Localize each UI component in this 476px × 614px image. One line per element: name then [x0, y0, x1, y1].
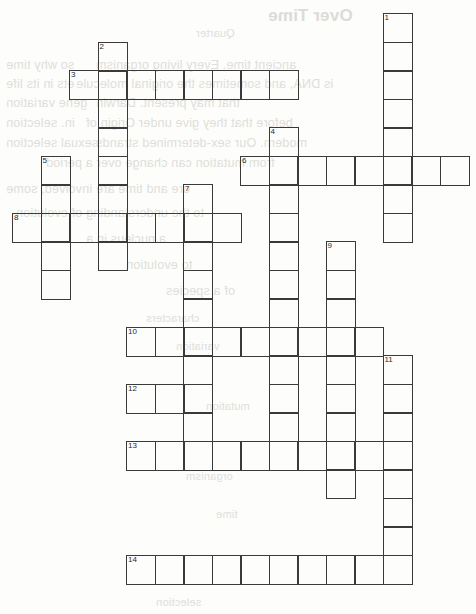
crossword-cell[interactable] — [212, 213, 242, 243]
crossword-cell[interactable] — [440, 156, 470, 186]
crossword-cell[interactable] — [383, 99, 413, 129]
crossword-cell[interactable] — [383, 42, 413, 72]
crossword-cell[interactable] — [183, 70, 213, 100]
crossword-cell[interactable] — [297, 555, 327, 585]
crossword-cell[interactable] — [326, 298, 356, 328]
crossword-cell[interactable]: 12 — [126, 384, 156, 414]
crossword-cell[interactable] — [326, 412, 356, 442]
crossword-cell[interactable] — [212, 555, 242, 585]
crossword-cell[interactable] — [269, 555, 299, 585]
crossword-cell[interactable] — [183, 213, 213, 243]
crossword-cell[interactable] — [41, 213, 71, 243]
crossword-cell[interactable] — [269, 298, 299, 328]
crossword-cell[interactable] — [183, 355, 213, 385]
crossword-cell[interactable] — [155, 327, 185, 357]
crossword-cell[interactable]: 9 — [326, 241, 356, 271]
crossword-cell[interactable]: 2 — [98, 42, 128, 72]
crossword-cell[interactable] — [269, 241, 299, 271]
crossword-cell[interactable] — [383, 384, 413, 414]
crossword-cell[interactable]: 3 — [69, 70, 99, 100]
crossword-cell[interactable] — [183, 270, 213, 300]
crossword-cell[interactable] — [354, 441, 384, 471]
crossword-cell[interactable] — [383, 127, 413, 157]
crossword-cell[interactable] — [269, 441, 299, 471]
crossword-cell[interactable] — [354, 156, 384, 186]
crossword-cell[interactable] — [269, 213, 299, 243]
crossword-cell[interactable] — [98, 127, 128, 157]
crossword-cell[interactable]: 11 — [383, 355, 413, 385]
crossword-cell[interactable] — [155, 213, 185, 243]
crossword-cell[interactable] — [183, 441, 213, 471]
crossword-cell[interactable] — [383, 184, 413, 214]
crossword-cell[interactable] — [212, 327, 242, 357]
crossword-cell[interactable] — [383, 70, 413, 100]
crossword-cell[interactable] — [98, 156, 128, 186]
crossword-cell[interactable] — [297, 156, 327, 186]
crossword-cell[interactable] — [183, 384, 213, 414]
crossword-cell[interactable] — [98, 70, 128, 100]
crossword-cell[interactable] — [297, 327, 327, 357]
crossword-cell[interactable]: 6 — [240, 156, 270, 186]
crossword-cell[interactable] — [155, 441, 185, 471]
crossword-cell[interactable] — [354, 555, 384, 585]
crossword-cell[interactable] — [69, 213, 99, 243]
crossword-cell[interactable] — [354, 327, 384, 357]
crossword-cell[interactable]: 4 — [269, 127, 299, 157]
crossword-cell[interactable] — [269, 70, 299, 100]
crossword-cell[interactable] — [383, 469, 413, 499]
crossword-cell[interactable] — [212, 70, 242, 100]
crossword-cell[interactable] — [41, 241, 71, 271]
crossword-cell[interactable] — [269, 412, 299, 442]
crossword-cell[interactable] — [383, 441, 413, 471]
crossword-cell[interactable] — [326, 156, 356, 186]
crossword-cell[interactable] — [383, 526, 413, 556]
crossword-cell[interactable] — [126, 213, 156, 243]
crossword-cell[interactable] — [240, 70, 270, 100]
crossword-cell[interactable] — [183, 327, 213, 357]
crossword-cell[interactable] — [269, 184, 299, 214]
crossword-cell[interactable] — [411, 156, 441, 186]
crossword-cell[interactable] — [269, 156, 299, 186]
crossword-cell[interactable] — [41, 184, 71, 214]
crossword-cell[interactable] — [183, 412, 213, 442]
crossword-cell[interactable] — [269, 270, 299, 300]
crossword-cell[interactable] — [183, 241, 213, 271]
crossword-cell[interactable] — [297, 441, 327, 471]
crossword-cell[interactable] — [98, 99, 128, 129]
crossword-cell[interactable] — [269, 355, 299, 385]
crossword-cell[interactable] — [183, 298, 213, 328]
crossword-cell[interactable] — [326, 355, 356, 385]
crossword-cell[interactable] — [326, 469, 356, 499]
crossword-cell[interactable] — [155, 555, 185, 585]
crossword-cell[interactable]: 13 — [126, 441, 156, 471]
crossword-grid[interactable]: 1234567891011121314 — [0, 0, 476, 614]
crossword-cell[interactable] — [269, 384, 299, 414]
crossword-cell[interactable]: 14 — [126, 555, 156, 585]
crossword-cell[interactable] — [126, 70, 156, 100]
crossword-cell[interactable] — [98, 184, 128, 214]
crossword-cell[interactable] — [155, 70, 185, 100]
crossword-cell[interactable]: 1 — [383, 13, 413, 43]
crossword-cell[interactable] — [41, 270, 71, 300]
crossword-cell[interactable] — [383, 498, 413, 528]
crossword-cell[interactable] — [183, 555, 213, 585]
crossword-cell[interactable] — [269, 327, 299, 357]
crossword-cell[interactable] — [98, 241, 128, 271]
crossword-cell[interactable] — [155, 384, 185, 414]
crossword-cell[interactable] — [326, 384, 356, 414]
crossword-cell[interactable]: 8 — [12, 213, 42, 243]
crossword-cell[interactable] — [240, 441, 270, 471]
crossword-cell[interactable] — [326, 441, 356, 471]
crossword-cell[interactable]: 5 — [41, 156, 71, 186]
crossword-cell[interactable] — [383, 555, 413, 585]
crossword-cell[interactable] — [326, 327, 356, 357]
crossword-cell[interactable] — [212, 441, 242, 471]
crossword-cell[interactable]: 7 — [183, 184, 213, 214]
crossword-cell[interactable] — [383, 213, 413, 243]
crossword-cell[interactable] — [98, 213, 128, 243]
crossword-cell[interactable]: 10 — [126, 327, 156, 357]
crossword-cell[interactable] — [383, 156, 413, 186]
crossword-cell[interactable] — [240, 555, 270, 585]
crossword-cell[interactable] — [326, 270, 356, 300]
crossword-cell[interactable] — [326, 555, 356, 585]
